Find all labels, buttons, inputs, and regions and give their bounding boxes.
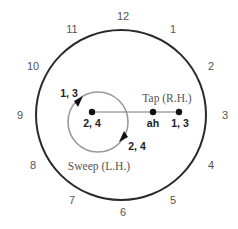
- clock-number-7: 7: [69, 194, 75, 206]
- clock-numbers: 12 1 2 3 4 5 6 7 8 9 10 11: [17, 10, 228, 218]
- tap-dot: [176, 109, 182, 115]
- center-dot: [89, 109, 95, 115]
- sweep-start-beats-label: 1, 3: [60, 87, 78, 99]
- clock-number-2: 2: [208, 60, 214, 72]
- clock-number-10: 10: [27, 60, 39, 72]
- clock-number-5: 5: [170, 194, 176, 206]
- clock-number-4: 4: [208, 159, 214, 171]
- tap-title: Tap (R.H.): [142, 92, 192, 105]
- sweep-title: Sweep (L.H.): [68, 160, 130, 173]
- clock-number-6: 6: [120, 206, 126, 218]
- clock-number-11: 11: [66, 23, 77, 35]
- sweep-end-beats-label: 2, 4: [128, 140, 146, 152]
- clock-diagram: 12 1 2 3 4 5 6 7 8 9 10 11 1, 3 2, 4 ah …: [0, 0, 238, 229]
- tap-beats-label: 1, 3: [171, 117, 189, 129]
- clock-number-3: 3: [222, 109, 228, 121]
- outer-clock-circle: [36, 30, 206, 200]
- center-beats-label: 2, 4: [83, 117, 101, 129]
- clock-number-9: 9: [17, 109, 23, 121]
- ah-dot: [150, 109, 156, 115]
- clock-number-1: 1: [170, 23, 176, 35]
- clock-number-8: 8: [30, 159, 36, 171]
- clock-number-12: 12: [117, 10, 129, 22]
- ah-label: ah: [147, 117, 159, 129]
